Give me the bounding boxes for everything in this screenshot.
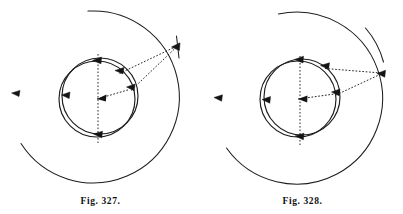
outer-orbit-arc-segment-right (366, 28, 384, 62)
inner-orbit-secondary (264, 59, 340, 135)
inner-marker-left (62, 92, 71, 99)
figure-328-panel: Fig. 328. (202, 0, 403, 214)
figure-plate: Fig. 327. (0, 0, 403, 214)
outer-orbit-marker-left (12, 90, 20, 96)
radius-vector-arrowhead (298, 96, 308, 103)
figure-327-caption: Fig. 327. (0, 196, 201, 206)
inner-marker-top (295, 56, 304, 63)
outer-orbit-marker-left (214, 95, 223, 101)
outer-orbit-arc (21, 11, 179, 183)
sight-line-upper (325, 69, 381, 74)
sight-line-lower (131, 48, 176, 91)
inner-marker-upper-right (321, 63, 330, 69)
inner-orbit-secondary (62, 58, 138, 134)
inner-marker-left (262, 97, 271, 104)
figure-328-caption: Fig. 328. (202, 196, 403, 206)
figure-328-drawing (202, 0, 403, 186)
sight-line-lower (336, 74, 381, 95)
figure-327-panel: Fig. 327. (0, 0, 201, 214)
figure-327-drawing (0, 0, 201, 186)
